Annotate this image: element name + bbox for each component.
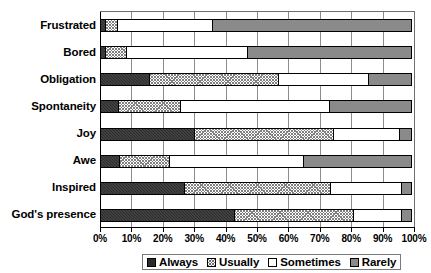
x-axis-label-40%: 40% (216, 233, 235, 244)
x-axis-label-80%: 80% (341, 233, 360, 244)
y-axis-label-frustrated: Frustrated (0, 19, 96, 31)
bar-segment-usually[interactable] (149, 73, 278, 86)
bar-segment-always[interactable] (100, 209, 235, 222)
x-axis-label-10%: 10% (122, 233, 141, 244)
legend-swatch-usually-icon (207, 258, 216, 267)
legend-swatch-rarely-icon (350, 258, 359, 267)
bar-row (100, 93, 415, 120)
y-axis-label-inspired: Inspired (0, 181, 96, 193)
bar-segment-rarely[interactable] (368, 73, 412, 86)
bar-segment-sometimes[interactable] (278, 73, 369, 86)
legend-label-rarely: Rarely (362, 256, 397, 268)
bar-row (100, 121, 415, 148)
bar-segment-always[interactable] (100, 73, 150, 86)
y-axis-label-god-s-presence: God's presence (0, 208, 96, 220)
bar-rows (100, 12, 415, 227)
bar-segment-sometimes[interactable] (330, 182, 402, 195)
x-axis-label-50%: 50% (247, 233, 266, 244)
bar-segment-always[interactable] (100, 182, 185, 195)
bar-row (100, 39, 415, 66)
x-axis-label-100%: 100% (402, 233, 427, 244)
legend-item-always[interactable]: Always (147, 256, 198, 268)
bar-segment-rarely[interactable] (401, 182, 412, 195)
chart-legend: AlwaysUsuallySometimesRarely (142, 254, 401, 270)
y-axis-label-bored: Bored (0, 46, 96, 58)
stacked-bar[interactable] (100, 73, 415, 86)
legend-label-usually: Usually (219, 256, 259, 268)
y-axis-label-awe: Awe (0, 154, 96, 166)
bar-segment-rarely[interactable] (401, 209, 412, 222)
bar-segment-sometimes[interactable] (353, 209, 402, 222)
y-axis-label-spontaneity: Spontaneity (0, 100, 96, 112)
bar-segment-sometimes[interactable] (180, 100, 330, 113)
x-axis-tick-labels: 0%10%20%30%40%50%60%70%80%90%100% (100, 233, 415, 246)
legend-item-usually[interactable]: Usually (207, 256, 259, 268)
bar-segment-sometimes[interactable] (169, 155, 304, 168)
stacked-bar[interactable] (100, 46, 415, 59)
bar-row (100, 12, 415, 39)
bar-segment-always[interactable] (100, 128, 195, 141)
legend-item-sometimes[interactable]: Sometimes (268, 256, 340, 268)
x-axis-label-20%: 20% (153, 233, 172, 244)
bar-segment-usually[interactable] (184, 182, 330, 195)
x-tick-70% (320, 228, 321, 232)
x-tick-80% (351, 228, 352, 232)
bar-segment-rarely[interactable] (303, 155, 412, 168)
y-axis-label-obligation: Obligation (0, 73, 96, 85)
x-axis-label-70%: 70% (310, 233, 329, 244)
legend-swatch-sometimes-icon (268, 258, 277, 267)
bar-segment-sometimes[interactable] (333, 128, 401, 141)
bar-segment-usually[interactable] (105, 46, 127, 59)
bar-segment-rarely[interactable] (247, 46, 412, 59)
stacked-bar[interactable] (100, 100, 415, 113)
bar-segment-rarely[interactable] (329, 100, 412, 113)
stacked-bar[interactable] (100, 128, 415, 141)
legend-swatch-always-icon (147, 258, 156, 267)
x-tick-90% (383, 228, 384, 232)
legend-item-rarely[interactable]: Rarely (350, 256, 397, 268)
bar-segment-usually[interactable] (118, 100, 181, 113)
stacked-bar[interactable] (100, 155, 415, 168)
plot-area (100, 11, 415, 228)
bar-segment-usually[interactable] (119, 155, 169, 168)
bar-row (100, 202, 415, 229)
stacked-bar-chart: FrustratedBoredObligationSpontaneityJoyA… (0, 0, 431, 273)
x-tick-60% (288, 228, 289, 232)
y-axis-label-joy: Joy (0, 127, 96, 139)
x-tick-40% (226, 228, 227, 232)
bar-row (100, 175, 415, 202)
x-axis-label-90%: 90% (373, 233, 392, 244)
bar-segment-usually[interactable] (194, 128, 334, 141)
bar-segment-rarely[interactable] (212, 19, 412, 32)
x-tick-30% (194, 228, 195, 232)
x-axis-label-0%: 0% (93, 233, 107, 244)
x-tick-100% (414, 228, 415, 232)
bar-segment-sometimes[interactable] (117, 19, 213, 32)
legend-label-sometimes: Sometimes (280, 256, 340, 268)
stacked-bar[interactable] (100, 182, 415, 195)
x-tick-50% (257, 228, 258, 232)
bar-row (100, 148, 415, 175)
legend-label-always: Always (159, 256, 198, 268)
stacked-bar[interactable] (100, 209, 415, 222)
bar-segment-rarely[interactable] (399, 128, 412, 141)
bar-row (100, 66, 415, 93)
x-tick-10% (131, 228, 132, 232)
bar-segment-always[interactable] (100, 155, 120, 168)
bar-segment-always[interactable] (100, 100, 119, 113)
x-tick-20% (163, 228, 164, 232)
x-axis-label-30%: 30% (184, 233, 203, 244)
bar-segment-usually[interactable] (234, 209, 354, 222)
stacked-bar[interactable] (100, 19, 415, 32)
y-axis-category-labels: FrustratedBoredObligationSpontaneityJoyA… (0, 11, 96, 228)
x-axis-label-60%: 60% (279, 233, 298, 244)
bar-segment-sometimes[interactable] (126, 46, 247, 59)
x-tick-0% (100, 228, 101, 232)
